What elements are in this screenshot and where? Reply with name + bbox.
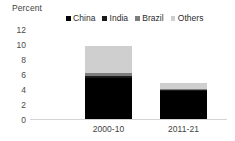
legend-label-others: Others [178,14,204,23]
stacked-bar-chart: Percent China India Brazil Others 024681… [0,0,235,141]
legend-item-china[interactable]: China [66,14,95,23]
y-tick-2: 2 [21,101,26,110]
y-tick-10: 10 [17,41,26,50]
legend-label-india: India [109,14,128,23]
x-tick-2000-10: 2000-10 [85,124,132,134]
legend-label-china: China [73,14,95,23]
y-axis-title: Percent [12,3,42,13]
x-tick-2011-21: 2011-21 [160,124,207,134]
legend-swatch-india-icon [102,16,107,21]
y-tick-6: 6 [21,71,26,80]
legend-swatch-china-icon [66,16,71,21]
y-tick-8: 8 [21,56,26,65]
bar-2000-10[interactable] [85,46,132,120]
x-axis-baseline [30,119,227,120]
bar-segment-others-2000-10 [85,46,132,73]
y-tick-4: 4 [21,86,26,95]
chart-legend: China India Brazil Others [66,14,204,23]
y-axis-tick-labels: 024681012 [10,30,26,120]
legend-swatch-brazil-icon [135,16,140,21]
legend-item-others[interactable]: Others [171,14,204,23]
bar-2011-21[interactable] [160,83,207,119]
plot-area [30,30,227,120]
bar-segment-china-2000-10 [85,78,132,119]
legend-swatch-others-icon [171,16,176,21]
legend-item-brazil[interactable]: Brazil [135,14,164,23]
bar-segment-china-2011-21 [160,91,207,119]
y-tick-0: 0 [21,116,26,125]
legend-item-india[interactable]: India [102,14,128,23]
y-tick-12: 12 [17,26,26,35]
legend-label-brazil: Brazil [142,14,164,23]
